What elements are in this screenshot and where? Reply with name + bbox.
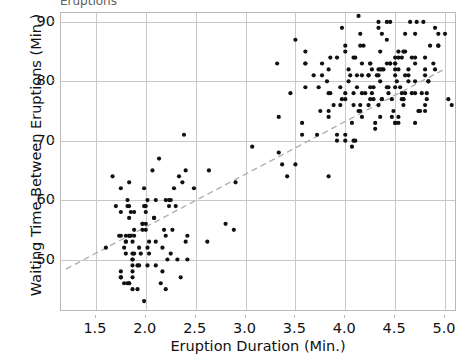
x-tick-label: 5.0 xyxy=(414,320,474,336)
x-tick-mark xyxy=(344,315,345,318)
x-axis-label: Eruption Duration (Min.) xyxy=(60,338,456,354)
x-tick-mark xyxy=(95,315,96,318)
x-tick-mark xyxy=(145,315,146,318)
x-tick-mark xyxy=(444,315,445,318)
scatter-plot-figure: Eruptions 5060708090 1.52.02.53.03.54.04… xyxy=(0,0,474,363)
y-tick-mark xyxy=(52,80,55,81)
chart-title: Eruptions xyxy=(60,0,117,8)
x-tick-mark xyxy=(394,315,395,318)
x-tick-mark xyxy=(294,315,295,318)
trendline xyxy=(66,69,445,269)
x-tick-mark xyxy=(195,315,196,318)
y-tick-mark xyxy=(52,140,55,141)
plot-canvas xyxy=(61,13,455,310)
y-axis-label: Waiting Time Between Eruptions (Min.) xyxy=(28,5,44,305)
plot-area xyxy=(60,12,456,311)
x-axis-ticks: 1.52.02.53.03.54.04.55.0 xyxy=(60,315,456,337)
y-tick-mark xyxy=(52,21,55,22)
y-tick-mark xyxy=(52,259,55,260)
y-tick-mark xyxy=(52,199,55,200)
x-tick-mark xyxy=(245,315,246,318)
data-points xyxy=(104,13,454,303)
